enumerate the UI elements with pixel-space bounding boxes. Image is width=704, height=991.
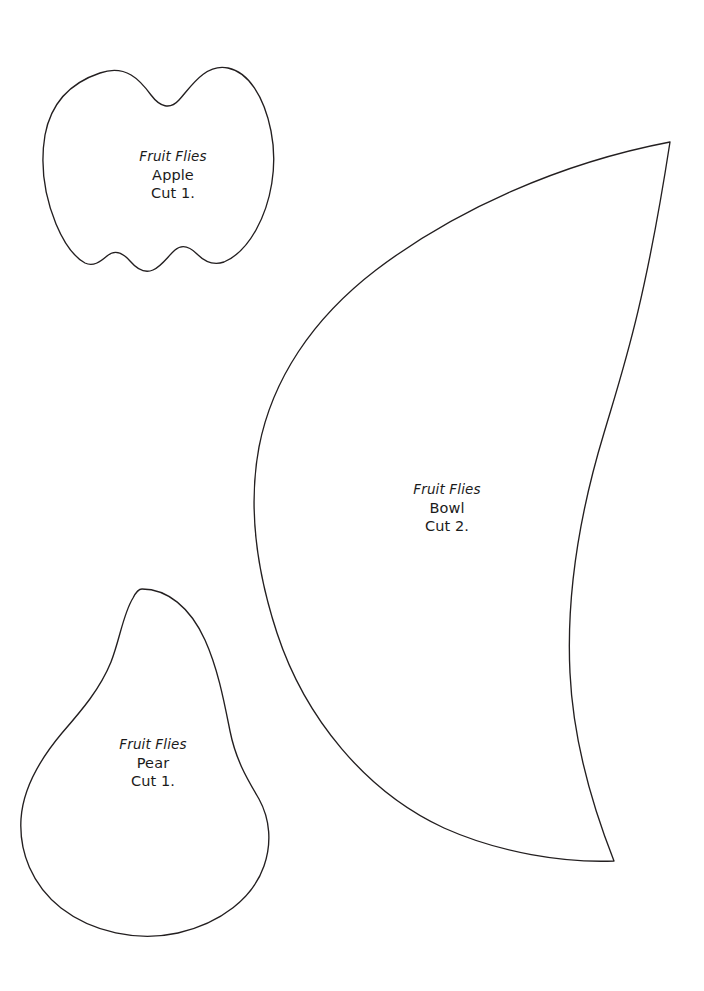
- bowl-cut-instruction: Cut 2.: [352, 517, 542, 536]
- bowl-collection-name: Fruit Flies: [352, 481, 542, 499]
- pear-collection-name: Fruit Flies: [58, 736, 248, 754]
- apple-collection-name: Fruit Flies: [78, 148, 268, 166]
- pear-piece-label: Fruit Flies Pear Cut 1.: [58, 736, 248, 791]
- bowl-piece-name: Bowl: [352, 499, 542, 518]
- apple-cut-instruction: Cut 1.: [78, 184, 268, 203]
- pear-piece-name: Pear: [58, 754, 248, 773]
- bowl-piece-label: Fruit Flies Bowl Cut 2.: [352, 481, 542, 536]
- apple-piece-name: Apple: [78, 166, 268, 185]
- apple-piece-label: Fruit Flies Apple Cut 1.: [78, 148, 268, 203]
- pear-cut-instruction: Cut 1.: [58, 772, 248, 791]
- pattern-sheet: Fruit Flies Apple Cut 1. Fruit Flies Bow…: [0, 0, 704, 991]
